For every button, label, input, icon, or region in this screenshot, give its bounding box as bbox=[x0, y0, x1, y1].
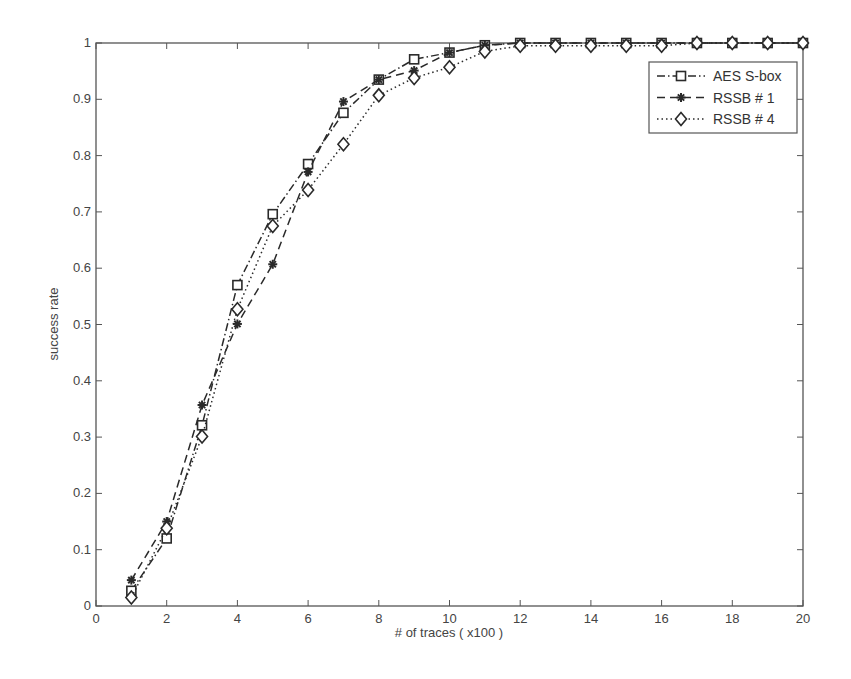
y-tick-label: 0 bbox=[84, 598, 91, 613]
y-tick-label: 0.5 bbox=[73, 317, 91, 332]
diamond-marker-icon bbox=[373, 89, 384, 102]
x-tick-label: 4 bbox=[234, 611, 241, 626]
diamond-marker-icon bbox=[409, 71, 420, 84]
legend-label: RSSB # 1 bbox=[713, 90, 775, 106]
x-tick-label: 14 bbox=[584, 611, 598, 626]
x-tick-label: 8 bbox=[375, 611, 382, 626]
square-marker-icon bbox=[339, 108, 348, 117]
y-tick-label: 0.1 bbox=[73, 542, 91, 557]
x-tick-label: 0 bbox=[92, 611, 99, 626]
y-tick-label: 0.2 bbox=[73, 485, 91, 500]
x-tick-label: 6 bbox=[304, 611, 311, 626]
x-tick-label: 12 bbox=[513, 611, 527, 626]
diamond-marker-icon bbox=[267, 219, 278, 232]
x-axis-label: # of traces ( x100 ) bbox=[395, 625, 503, 640]
square-marker-icon bbox=[198, 421, 207, 430]
y-tick-label: 1 bbox=[84, 35, 91, 50]
legend-label: AES S-box bbox=[713, 68, 781, 84]
x-tick-label: 16 bbox=[654, 611, 668, 626]
y-tick-label: 0.3 bbox=[73, 429, 91, 444]
legend-label: RSSB # 4 bbox=[713, 111, 775, 127]
y-tick-label: 0.9 bbox=[73, 91, 91, 106]
diamond-marker-icon bbox=[444, 61, 455, 74]
star-marker-icon bbox=[339, 97, 348, 106]
square-marker-icon bbox=[268, 210, 277, 219]
star-marker-icon bbox=[374, 75, 383, 84]
star-marker-icon bbox=[198, 401, 207, 410]
square-marker-icon bbox=[410, 55, 419, 64]
x-tick-label: 18 bbox=[725, 611, 739, 626]
y-tick-label: 0.8 bbox=[73, 148, 91, 163]
star-marker-icon bbox=[233, 319, 242, 328]
diamond-marker-icon bbox=[197, 430, 208, 443]
y-tick-label: 0.7 bbox=[73, 204, 91, 219]
success-rate-chart: 0246810121416182000.10.20.30.40.50.60.70… bbox=[0, 0, 851, 679]
star-marker-icon bbox=[677, 93, 686, 102]
x-tick-label: 2 bbox=[163, 611, 170, 626]
x-tick-label: 10 bbox=[442, 611, 456, 626]
star-marker-icon bbox=[304, 167, 313, 176]
y-tick-label: 0.6 bbox=[73, 260, 91, 275]
square-marker-icon bbox=[233, 281, 242, 290]
y-tick-label: 0.4 bbox=[73, 373, 91, 388]
diamond-marker-icon bbox=[232, 303, 243, 316]
legend: AES S-boxRSSB # 1RSSB # 4 bbox=[649, 62, 797, 133]
star-marker-icon bbox=[127, 576, 136, 585]
square-marker-icon bbox=[677, 72, 686, 81]
x-tick-label: 20 bbox=[796, 611, 810, 626]
star-marker-icon bbox=[268, 260, 277, 269]
y-axis-label: success rate bbox=[46, 288, 61, 361]
